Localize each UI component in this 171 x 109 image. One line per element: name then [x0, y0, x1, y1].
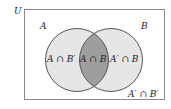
- region-a-only-label: A ∩ B′: [46, 54, 75, 64]
- region-neither-label: A′ ∩ B′: [127, 89, 158, 99]
- region-b-only-label: A′ ∩ B: [109, 54, 139, 64]
- set-b-label: B: [140, 21, 148, 31]
- venn-diagram: U A B A ∩ B′ A ∩ B A′ ∩ B A′ ∩ B′: [0, 0, 171, 109]
- universe-label: U: [14, 6, 22, 16]
- region-intersection-label: A ∩ B: [79, 54, 107, 64]
- set-a-label: A: [39, 21, 47, 31]
